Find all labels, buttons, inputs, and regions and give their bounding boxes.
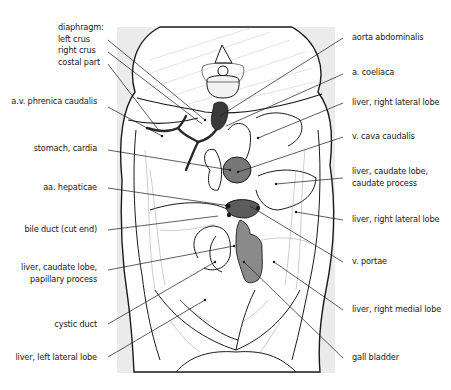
label-left-crus: left crus [58,34,104,46]
label-text: v. portae [352,256,387,268]
label-text: v. cava caudalis [352,131,415,143]
label-text: aa. hepaticae [43,182,97,194]
label-aorta-abdominalis: aorta abdominalis [352,32,423,44]
label-text: cystic duct [54,319,97,331]
label-v-cava-caudalis: v. cava caudalis [352,131,415,143]
label-diaphragm: diaphragm: left crus right crus costal p… [58,22,104,68]
label-stomach-cardia: stomach, cardia [34,143,97,155]
label-text: liver, left lateral lobe [15,352,97,364]
label-text: aorta abdominalis [352,32,423,44]
label-text: liver, caudate lobe, [352,166,428,178]
label-aa-hepaticae: aa. hepaticae [43,182,97,194]
label-text: liver, right lateral lobe [352,214,439,226]
label-liver-right-lateral-lobe: liver, right lateral lobe [352,214,439,226]
label-gall-bladder: gall bladder [352,352,399,364]
label-text: bile duct (cut end) [24,224,97,236]
label-text: a. coeliaca [352,67,394,79]
label-text: stomach, cardia [34,143,97,155]
label-diaphragm-heading: diaphragm: [58,22,104,34]
label-costal-part: costal part [58,57,104,69]
label-text: liver, right lateral lobe [352,97,439,109]
label-cystic-duct: cystic duct [54,319,97,331]
label-liver-right-lateral-lobe-top: liver, right lateral lobe [352,97,439,109]
label-text: liver, caudate lobe, [21,262,97,274]
vena-cava-caudalis [223,157,251,183]
label-text: papillary process [21,274,97,286]
label-text: gall bladder [352,352,399,364]
label-text: a.v. phrenica caudalis [11,96,97,108]
label-v-portae: v. portae [352,256,387,268]
label-bile-duct-cut-end: bile duct (cut end) [24,224,97,236]
label-liver-left-lateral-lobe: liver, left lateral lobe [15,352,97,364]
label-right-crus: right crus [58,45,104,57]
label-liver-caudate-papillary: liver, caudate lobe, papillary process [21,262,97,285]
label-av-phrenica-caudalis: a.v. phrenica caudalis [11,96,97,108]
label-text: caudate process [352,178,428,190]
label-liver-caudate-caudate-process: liver, caudate lobe, caudate process [352,166,428,189]
label-liver-right-medial-lobe: liver, right medial lobe [352,304,441,316]
anatomy-diagram: diaphragm: left crus right crus costal p… [0,0,451,390]
label-a-coeliaca: a. coeliaca [352,67,394,79]
label-text: liver, right medial lobe [352,304,441,316]
